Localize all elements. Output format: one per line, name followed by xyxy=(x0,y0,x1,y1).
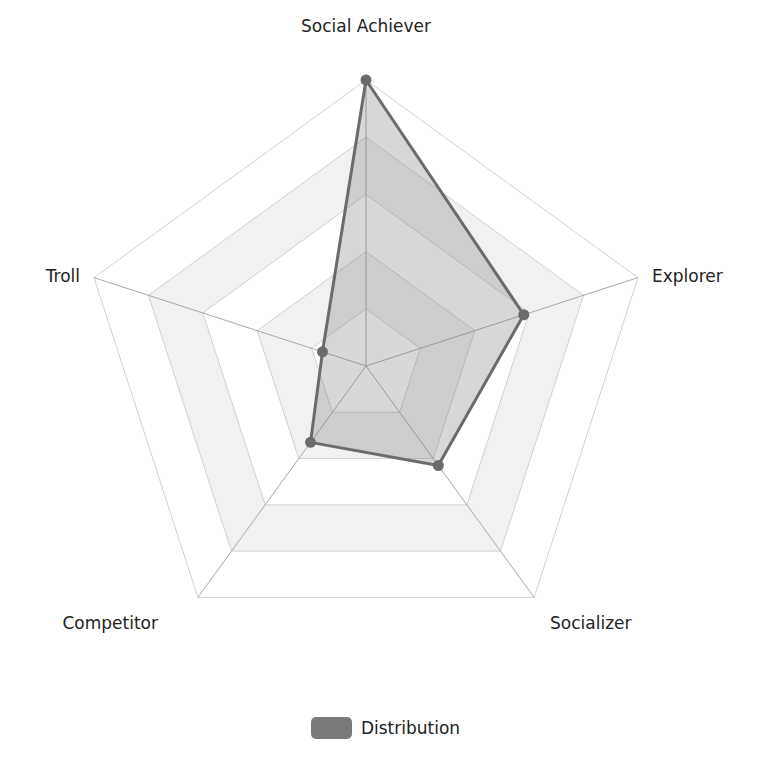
data-point[interactable] xyxy=(317,346,328,357)
legend[interactable]: Distribution xyxy=(0,717,771,739)
data-point[interactable] xyxy=(518,309,529,320)
legend-label[interactable]: Distribution xyxy=(361,718,460,738)
data-point[interactable] xyxy=(361,75,372,86)
radar-chart: Social AchieverExplorerSocializerCompeti… xyxy=(0,0,771,758)
axis-label-troll: Troll xyxy=(45,266,80,286)
axis-label-explorer: Explorer xyxy=(652,266,723,286)
axis-label-socializer: Socializer xyxy=(550,613,632,633)
data-point[interactable] xyxy=(433,460,444,471)
axis-label-social-achiever: Social Achiever xyxy=(301,16,431,36)
data-point[interactable] xyxy=(305,437,316,448)
legend-swatch[interactable] xyxy=(311,717,352,739)
axis-label-competitor: Competitor xyxy=(62,613,158,633)
